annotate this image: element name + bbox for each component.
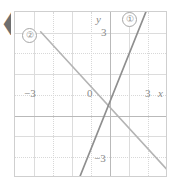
x-axis-label: x <box>158 87 163 99</box>
origin-label: 0 <box>87 87 93 99</box>
y-tick-label-3: 3 <box>101 26 107 38</box>
y-tick-label-neg3: −3 <box>94 152 106 164</box>
x-tick-label-neg3: −3 <box>24 87 36 99</box>
line-tag-2: ② <box>22 28 37 43</box>
coordinate-graph-figure: ❮ y x 3 −3 −3 3 0 ① <box>0 0 181 189</box>
line-tag-1: ① <box>122 12 137 27</box>
x-tick-label-3: 3 <box>145 87 151 99</box>
y-axis-label: y <box>96 13 101 25</box>
cropped-chevron-icon: ❮ <box>0 9 11 35</box>
